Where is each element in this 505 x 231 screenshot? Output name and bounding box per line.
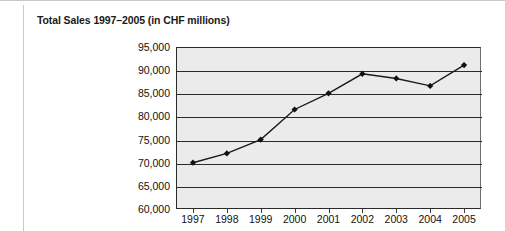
data-point-marker <box>427 83 433 89</box>
y-axis-tick-label: 90,000 <box>108 65 170 75</box>
chart-title: Total Sales 1997–2005 (in CHF millions) <box>37 14 230 26</box>
y-axis-tick-label: 95,000 <box>108 42 170 52</box>
data-point-marker <box>393 75 399 81</box>
y-axis-tick-label: 70,000 <box>108 158 170 168</box>
x-axis-tick-labels: 199719981999200020012002200320042005 <box>176 213 481 229</box>
data-point-marker <box>325 90 331 96</box>
y-axis-tick-label: 60,000 <box>108 204 170 214</box>
data-point-marker <box>224 150 230 156</box>
plot-wrapper <box>176 47 481 209</box>
data-point-marker <box>359 71 365 77</box>
figure-left-rule <box>23 5 24 231</box>
y-axis-tick-label: 65,000 <box>108 181 170 191</box>
x-axis-tick-label: 2005 <box>441 213 487 225</box>
y-axis-tick-labels: 95,00090,00085,00080,00075,00070,00065,0… <box>108 47 170 209</box>
data-point-marker <box>461 62 467 68</box>
chart-figure: Total Sales 1997–2005 (in CHF millions) … <box>0 0 505 231</box>
y-axis-tick-label: 80,000 <box>108 111 170 121</box>
line-series <box>176 47 481 209</box>
data-point-marker <box>190 160 196 166</box>
y-axis-tick-label: 85,000 <box>108 88 170 98</box>
y-axis-tick-label: 75,000 <box>108 135 170 145</box>
series-line <box>193 65 464 163</box>
